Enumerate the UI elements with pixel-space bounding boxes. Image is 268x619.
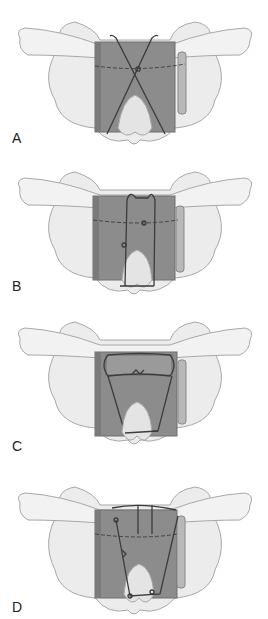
vertebra-graft-illustration-b	[0, 150, 268, 300]
vertebra-graft-illustration-c	[0, 300, 268, 450]
panel-c: C	[0, 300, 268, 450]
panel-a: A	[0, 0, 268, 150]
panel-label: B	[12, 278, 21, 294]
panel-label: D	[12, 599, 22, 615]
panel-b: B	[0, 150, 268, 300]
panel-d: D	[0, 450, 268, 619]
panel-label: A	[12, 130, 21, 146]
vertebra-graft-illustration-d	[0, 450, 268, 619]
vertebra-graft-illustration-a	[0, 0, 268, 150]
